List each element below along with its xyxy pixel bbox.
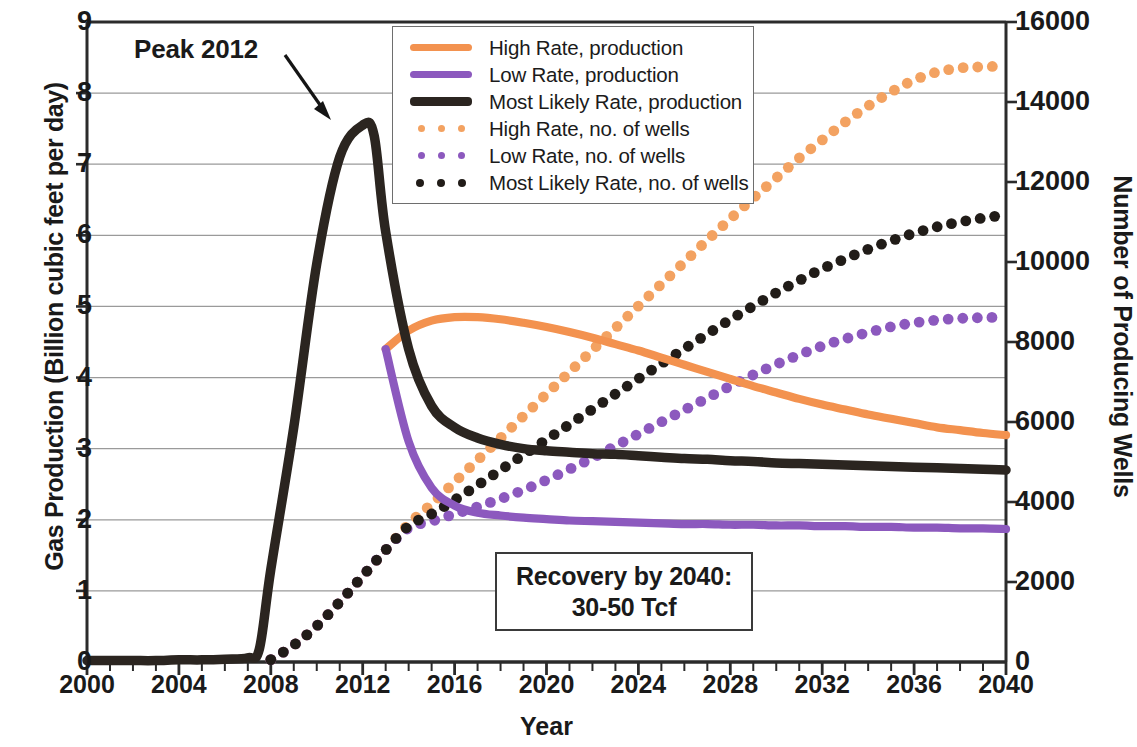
- y-tick-label-left: 3: [30, 435, 92, 462]
- y-tick-label-right: 12000: [1015, 168, 1130, 195]
- y-tick-label-right: 8000: [1015, 328, 1130, 355]
- legend-item-label: Most Likely Rate, no. of wells: [489, 171, 748, 195]
- y-tick-label-right: 4000: [1015, 488, 1130, 515]
- y-tick-label-right: 6000: [1015, 408, 1130, 435]
- legend-swatch-icon: [393, 152, 489, 159]
- y-tick-label-left: 9: [30, 8, 92, 35]
- y-tick-label-right: 2000: [1015, 568, 1130, 595]
- recovery-line-2: 30-50 Tcf: [572, 592, 677, 623]
- legend-item: Most Likely Rate, production: [393, 88, 753, 115]
- legend-item-label: Low Rate, production: [489, 63, 679, 87]
- legend-item-label: High Rate, no. of wells: [489, 117, 690, 141]
- legend-swatch-icon: [393, 71, 489, 78]
- series-high-rate-production: [386, 317, 1006, 435]
- legend-item: High Rate, production: [393, 34, 753, 61]
- y-tick-label-left: 4: [30, 364, 92, 391]
- y-tick-label-right: 10000: [1015, 248, 1130, 275]
- y-tick-label-right: 14000: [1015, 88, 1130, 115]
- legend-item-label: Low Rate, no. of wells: [489, 144, 685, 168]
- legend-swatch-icon: [393, 44, 489, 51]
- legend-item: Low Rate, no. of wells: [393, 142, 753, 169]
- legend-swatch-icon: [393, 125, 489, 132]
- legend-swatch-icon: [393, 179, 489, 187]
- y-tick-label-left: 7: [30, 150, 92, 177]
- y-tick-label-left: 1: [30, 577, 92, 604]
- y-tick-label-right: 16000: [1015, 8, 1130, 35]
- peak-arrow: [285, 55, 331, 120]
- legend-swatch-icon: [393, 97, 489, 106]
- peak-annotation-label: Peak 2012: [134, 34, 258, 65]
- legend-item: Low Rate, production: [393, 61, 753, 88]
- y-tick-label-left: 8: [30, 79, 92, 106]
- legend-item-label: Most Likely Rate, production: [489, 90, 742, 114]
- x-tick-label: 2040: [946, 672, 1066, 697]
- x-axis-title: Year: [87, 712, 1006, 741]
- legend-item: High Rate, no. of wells: [393, 115, 753, 142]
- chart-legend: High Rate, productionLow Rate, productio…: [392, 26, 754, 204]
- y-tick-label-left: 6: [30, 221, 92, 248]
- recovery-line-1: Recovery by 2040:: [516, 561, 732, 592]
- y-tick-label-left: 2: [30, 506, 92, 533]
- recovery-annotation-box: Recovery by 2040: 30-50 Tcf: [495, 552, 753, 631]
- y-tick-label-left: 5: [30, 292, 92, 319]
- legend-item: Most Likely Rate, no. of wells: [393, 169, 753, 196]
- legend-item-label: High Rate, production: [489, 36, 683, 60]
